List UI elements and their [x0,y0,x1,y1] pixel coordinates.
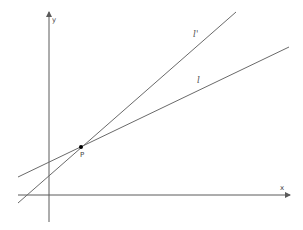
y-axis-label: y [52,16,56,24]
line-l-label: l [197,75,200,85]
point-p [79,145,83,149]
line-l [18,47,289,177]
coordinate-diagram: y x l' l P [0,0,303,230]
x-axis-label: x [280,184,284,192]
line-l-prime-label: l' [193,29,198,39]
line-l-prime [18,12,236,203]
point-p-label: P [80,151,84,159]
